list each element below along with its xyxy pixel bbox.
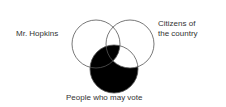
shaded-region <box>0 0 226 107</box>
label-people-who-may-vote: People who may vote <box>66 93 143 103</box>
venn-diagram <box>0 0 226 107</box>
label-mr-hopkins: Mr. Hopkins <box>16 29 58 39</box>
label-citizens: Citizens of the country <box>158 19 198 39</box>
label-citizens-line2: the country <box>158 29 198 39</box>
label-citizens-line1: Citizens of <box>158 19 198 29</box>
